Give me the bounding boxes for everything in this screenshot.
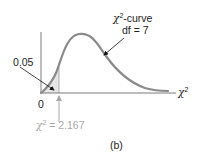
area-label: 0.05 (13, 57, 33, 68)
x-tick-0: 0 (38, 99, 44, 110)
area-arrow (20, 67, 54, 90)
x-axis-label: χ2 (178, 87, 188, 98)
chi-square-curve (41, 34, 168, 93)
critical-value-label: χ2 = 2.167 (36, 120, 85, 131)
chi-square-figure: χ2-curve df = 7 0.05 χ2 0 χ2 = 2.167 (b) (0, 0, 200, 163)
df-label: df = 7 (122, 25, 149, 36)
curve-label: χ2-curve (113, 13, 152, 24)
curve-label-text: -curve (123, 12, 152, 24)
superscript-2: 2 (119, 12, 123, 19)
curve-arrow (104, 38, 124, 55)
chart-plot (0, 0, 200, 163)
figure-caption: (b) (110, 140, 123, 151)
